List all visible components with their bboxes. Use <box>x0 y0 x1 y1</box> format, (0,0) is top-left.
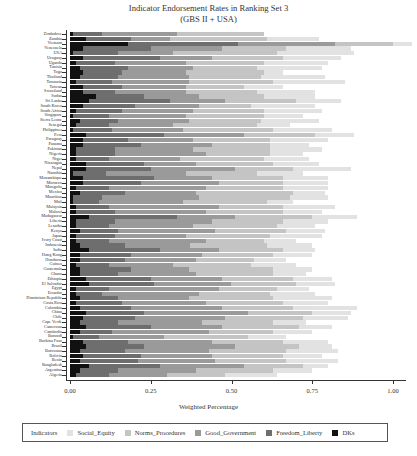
chart-title: Indicator Endorsement Rates in Ranking S… <box>0 3 417 13</box>
bar-segment-norms-procedures <box>222 306 293 310</box>
bar-segment-good-government <box>141 354 212 358</box>
bar-segment-social-equity <box>273 368 312 372</box>
bar-segment-good-government <box>138 359 216 363</box>
bar-segment-freedom-liberty <box>86 311 144 315</box>
bar-segment-social-equity <box>244 85 283 89</box>
bar-segment-dks <box>70 248 89 252</box>
bar-segment-dks <box>70 215 89 219</box>
bar-segment-norms-procedures <box>190 243 268 247</box>
bar-segment-good-government <box>160 248 218 252</box>
bar-segment-good-government <box>122 109 193 113</box>
bar-segment-social-equity <box>257 90 315 94</box>
bar-segment-norms-procedures <box>186 70 264 74</box>
bar-segment-good-government <box>151 46 222 50</box>
bar-segment-social-equity <box>257 123 289 127</box>
bar-segment-good-government <box>115 210 205 214</box>
bar-segment-dks <box>70 296 80 300</box>
bar-segment-norms-procedures <box>193 109 264 113</box>
x-axis-title: Weighted Percentage <box>0 403 417 411</box>
bar-segment-freedom-liberty <box>83 46 151 50</box>
bar-segment-norms-procedures <box>206 239 264 243</box>
legend: Indicators Social_EquityNorms_Procedures… <box>22 423 388 442</box>
legend-swatch-icon <box>195 430 201 436</box>
bar-segment-norms-procedures <box>225 99 296 103</box>
bar-segment-norms-procedures <box>186 171 257 175</box>
bar-row <box>70 243 312 247</box>
bar-segment-social-equity <box>299 325 331 329</box>
bar-segment-good-government <box>131 253 202 257</box>
bar-segment-good-government <box>102 32 176 36</box>
bar-segment-good-government <box>112 128 183 132</box>
bar-segment-social-equity <box>273 330 312 334</box>
bar-segment-norms-procedures <box>209 349 287 353</box>
bar-segment-good-government <box>164 133 245 137</box>
bar-segment-freedom-liberty <box>76 186 108 190</box>
bar-segment-social-equity <box>273 320 305 324</box>
bar-segment-norms-procedures <box>186 114 264 118</box>
x-axis-tick <box>312 381 313 384</box>
bar-segment-social-equity <box>299 344 331 348</box>
bar-segment-good-government <box>118 51 173 55</box>
bar-segment-dks <box>70 364 89 368</box>
bar-segment-good-government <box>170 99 225 103</box>
bar-segment-dks <box>70 272 80 276</box>
bar-row <box>70 359 338 363</box>
bar-segment-norms-procedures <box>173 123 257 127</box>
bar-segment-norms-procedures <box>167 373 225 377</box>
legend-label: Freedom_Liberty <box>276 429 322 436</box>
legend-item-norms-procedures: Norms_Procedures <box>125 429 186 436</box>
bar-segment-freedom-liberty <box>86 37 131 41</box>
bar-row <box>70 128 332 132</box>
chart-subtitle: (GBS II + USA) <box>0 14 417 24</box>
x-axis-tick <box>70 381 71 384</box>
bar-segment-dks <box>70 349 80 353</box>
bar-segment-freedom-liberty <box>86 167 151 171</box>
bar-segment-social-equity <box>264 70 283 74</box>
bar-segment-norms-procedures <box>186 61 264 65</box>
bar-row <box>70 181 328 185</box>
x-axis-line <box>66 380 406 381</box>
bar-segment-freedom-liberty <box>83 90 115 94</box>
bar-row <box>70 301 328 305</box>
bar-segment-norms-procedures <box>193 66 258 70</box>
bar-segment-good-government <box>102 195 199 199</box>
bar-segment-social-equity <box>261 75 326 79</box>
bar-row <box>70 171 303 175</box>
bar-row <box>70 152 303 156</box>
bar-segment-freedom-liberty <box>80 253 132 257</box>
bar-segment-social-equity <box>270 143 309 147</box>
bar-segment-dks <box>70 133 86 137</box>
bar-segment-norms-procedures <box>173 51 276 55</box>
bar-row <box>70 373 277 377</box>
bar-segment-freedom-liberty <box>86 162 144 166</box>
bar-segment-social-equity <box>283 354 322 358</box>
bar-segment-freedom-liberty <box>76 292 102 296</box>
bar-segment-freedom-liberty <box>83 143 141 147</box>
x-axis-tick-label: 1.00 <box>387 387 398 394</box>
bar-segment-good-government <box>106 171 187 175</box>
bar-segment-good-government <box>144 94 199 98</box>
legend-label: DKs <box>342 429 354 436</box>
bar-segment-social-equity <box>264 109 322 113</box>
bar-segment-dks <box>70 330 80 334</box>
bar-segment-good-government <box>151 167 235 171</box>
legend-item-dks: DKs <box>332 429 354 436</box>
bar-segment-social-equity <box>267 200 293 204</box>
bar-segment-social-equity <box>257 66 322 70</box>
bar-segment-social-equity <box>264 94 316 98</box>
bar-segment-freedom-liberty <box>76 210 115 214</box>
bar-segment-good-government <box>118 320 202 324</box>
bar-segment-social-equity <box>290 195 329 199</box>
bar-segment-norms-procedures <box>212 354 283 358</box>
bar-segment-good-government <box>144 311 247 315</box>
bar-segment-social-equity <box>283 248 315 252</box>
bar-segment-norms-procedures <box>193 138 271 142</box>
bar-row <box>70 176 328 180</box>
bar-segment-good-government <box>109 224 193 228</box>
bar-segment-social-equity <box>264 157 309 161</box>
bar-row <box>70 219 328 223</box>
bar-segment-social-equity <box>277 224 316 228</box>
bar-segment-freedom-liberty <box>80 368 119 372</box>
bar-segment-freedom-liberty <box>80 349 125 353</box>
bar-segment-dks <box>70 94 96 98</box>
